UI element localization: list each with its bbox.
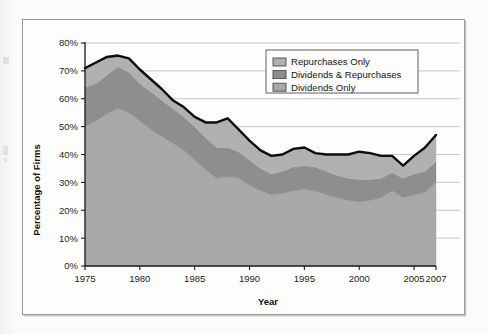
chart-canvas: 0%10%20%30%40%50%60%70%80% 1975198019851… bbox=[23, 20, 466, 316]
figure-frame: 0%10%20%30%40%50%60%70%80% 1975198019851… bbox=[22, 19, 465, 315]
x-tick-label: 1990 bbox=[239, 273, 260, 284]
chart-legend[interactable]: Repurchases OnlyDividends & RepurchasesD… bbox=[266, 50, 418, 93]
y-axis-title: Percentage of Firms bbox=[31, 144, 42, 235]
y-tick-label: 70% bbox=[59, 65, 79, 76]
page-edge-bleed bbox=[0, 0, 16, 334]
y-tick-label: 50% bbox=[59, 121, 79, 132]
x-tick-label: 2000 bbox=[349, 273, 370, 284]
y-tick-label: 40% bbox=[59, 149, 79, 160]
legend-label: Dividends & Repurchases bbox=[291, 69, 402, 80]
y-tick-label: 30% bbox=[59, 177, 79, 188]
legend-swatch bbox=[273, 71, 286, 79]
x-tick-label: 2005 bbox=[403, 273, 424, 284]
y-axis-ticks: 0%10%20%30%40%50%60%70%80% bbox=[59, 37, 85, 271]
bleed-artifact bbox=[3, 57, 9, 64]
y-tick-label: 20% bbox=[59, 205, 79, 216]
x-tick-label: 1995 bbox=[294, 273, 315, 284]
y-tick-label: 0% bbox=[64, 260, 78, 271]
bleed-artifact bbox=[3, 146, 8, 155]
legend-label: Dividends Only bbox=[291, 82, 356, 93]
x-tick-label: 1985 bbox=[184, 273, 205, 284]
x-tick-label: 1980 bbox=[129, 273, 150, 284]
y-tick-label: 60% bbox=[59, 93, 79, 104]
x-tick-label: 2007 bbox=[425, 273, 446, 284]
x-axis-title: Year bbox=[258, 296, 278, 307]
y-tick-label: 80% bbox=[59, 37, 79, 48]
legend-swatch bbox=[273, 83, 286, 91]
y-tick-label: 10% bbox=[59, 233, 79, 244]
legend-swatch bbox=[273, 58, 286, 66]
legend-label: Repurchases Only bbox=[291, 56, 370, 67]
x-axis-ticks: 19751980198519901995200020052007 bbox=[74, 266, 446, 284]
x-tick-label: 1975 bbox=[74, 273, 95, 284]
bleed-artifact bbox=[4, 158, 7, 162]
stacked-area-chart[interactable]: 0%10%20%30%40%50%60%70%80% 1975198019851… bbox=[23, 20, 466, 316]
